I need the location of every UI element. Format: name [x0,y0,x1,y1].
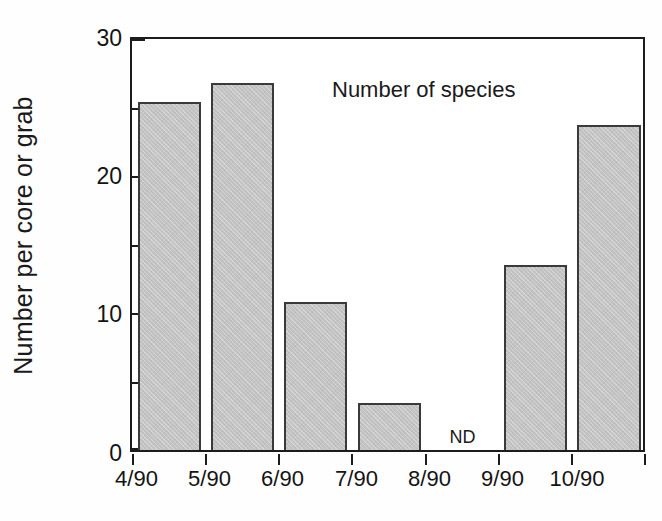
x-tick-1 [205,454,207,465]
y-tick-label-0: 0 [62,440,122,467]
x-axis-label-9-90: 9/90 [466,466,539,492]
bar-5-90[interactable] [211,83,274,450]
x-tick-0 [132,454,134,465]
x-tick-2 [278,454,280,465]
x-tick-3 [351,454,353,465]
bar-8-90-nd-label: ND [431,427,494,448]
bar-9-90[interactable] [504,265,567,450]
bar-10-90[interactable] [577,125,641,450]
x-tick-7 [644,454,646,465]
bar-4-90[interactable] [138,102,201,450]
x-tick-6 [571,454,573,465]
x-axis-label-4-90: 4/90 [100,466,173,492]
y-tick-label-10: 10 [62,301,122,328]
bar-fill-texture [506,267,565,450]
y-axis-title: Number per core or grab [9,96,38,374]
y-axis-title-container: Number per core or grab [0,0,46,470]
bar-fill-texture [360,405,419,450]
bar-7-90[interactable] [358,403,421,450]
x-tick-4 [425,454,427,465]
x-axis-label-7-90: 7/90 [320,466,393,492]
y-tick-30 [132,39,145,41]
chart-annotation: Number of species [332,77,515,103]
x-tick-5 [498,454,500,465]
bar-fill-texture [213,85,272,450]
bar-fill-texture [286,304,345,450]
bar-fill-texture [579,127,639,450]
bar-6-90[interactable] [284,302,347,450]
bar-fill-texture [140,104,199,450]
x-axis-label-6-90: 6/90 [246,466,319,492]
chart-figure: Number per core or grab 30 20 10 0 Numbe… [0,0,662,521]
y-tick-label-20: 20 [62,163,122,190]
x-axis-label-5-90: 5/90 [173,466,246,492]
x-axis-label-10-90: 10/90 [539,466,615,492]
y-tick-label-30: 30 [62,25,122,52]
plot-area: Number of species ND [130,37,645,452]
x-axis-label-8-90: 8/90 [393,466,466,492]
